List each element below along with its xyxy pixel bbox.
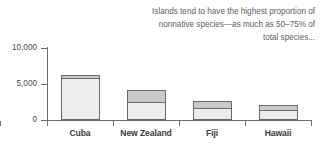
x-label-fiji: Fiji [179, 128, 245, 138]
bar-new-zealand[interactable] [127, 90, 166, 120]
caption-line-1: Islands tend to have the highest proport… [112, 5, 315, 18]
x-tick-4 [311, 121, 312, 126]
y-label-0: 0 [0, 116, 37, 124]
bar-new-zealand-nonnative-segment [128, 91, 165, 103]
x-tick-0 [47, 121, 48, 126]
stacked-bar-chart: 10,000 5,000 0 Cuba New Zealand Fiji Haw… [0, 40, 321, 149]
x-tick-3 [245, 121, 246, 126]
bar-hawaii-nonnative-segment [260, 106, 297, 111]
x-tick-1b [0, 121, 1, 126]
chart-caption: Islands tend to have the highest proport… [112, 5, 315, 45]
caption-line-2: nonnative species—as much as 50–75% of [112, 18, 315, 31]
bar-cuba[interactable] [61, 75, 100, 120]
x-tick-2 [179, 121, 180, 126]
y-tick-5000 [41, 84, 47, 85]
bar-fiji-nonnative-segment [194, 102, 231, 109]
y-label-5000: 5,000 [0, 80, 37, 88]
bar-hawaii[interactable] [259, 105, 298, 120]
bar-cuba-nonnative-segment [62, 76, 99, 79]
y-tick-10000 [41, 48, 47, 49]
y-label-10000: 10,000 [0, 44, 37, 52]
bar-fiji[interactable] [193, 101, 232, 120]
y-axis-line [47, 47, 48, 121]
x-label-cuba: Cuba [47, 128, 113, 138]
x-label-hawaii: Hawaii [245, 128, 311, 138]
x-tick-1 [113, 121, 114, 126]
x-label-new-zealand: New Zealand [113, 128, 179, 138]
